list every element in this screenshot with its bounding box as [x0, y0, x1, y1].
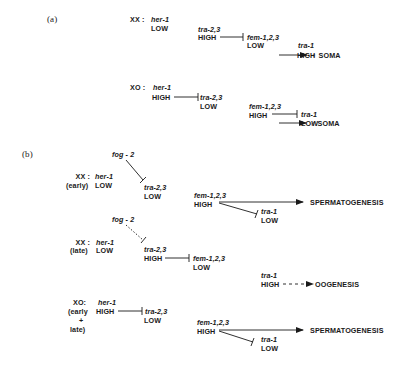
pathway-connectors: [0, 0, 403, 371]
b-xo-tra23-gene: tra-2,3: [145, 307, 167, 316]
b-xx-late-fog2: fog - 2: [112, 215, 134, 224]
a-xx-her1-level: LOW: [151, 24, 168, 33]
b-xx-early-her1-level: LOW: [95, 181, 112, 190]
a-xx-genotype: XX :: [130, 15, 144, 24]
b-xx-late-fem123-gene: fem-1,2,3: [193, 254, 225, 263]
b-xx-late-fem123-level: LOW: [193, 263, 210, 272]
b-xo-stage-line1: (early: [68, 307, 88, 316]
b-xo-fem123-gene: fem-1,2,3: [197, 318, 229, 327]
b-xx-early-stage: (early): [66, 181, 88, 190]
a-xx-tra1-gene: tra-1: [298, 41, 314, 50]
b-xo-stage-line3: late): [70, 325, 85, 334]
b-xx-early-tra23-gene: tra-2,3: [144, 183, 166, 192]
a-xx-tra23-level: HIGH: [198, 33, 216, 42]
b-xx-early-genotype: XX :: [66, 172, 90, 181]
a-xo-outcome-male-soma: ♂ SOMA: [310, 119, 340, 128]
panel-a-label: (a): [47, 15, 57, 24]
b-xo-her1-level: HIGH: [96, 307, 114, 316]
a-xo-her1-level: HIGH: [152, 93, 170, 102]
a-xx-outcome-female-soma: ♀ SOMA: [311, 51, 341, 60]
b-xo-tra1-level: LOW: [261, 344, 278, 353]
b-xx-late-tra23-level: HIGH: [144, 254, 162, 263]
b-xx-late-stage: (late): [70, 246, 88, 255]
a-xo-tra23-gene: tra-2,3: [200, 93, 222, 102]
b-xx-early-fem123-gene: fem-1,2,3: [194, 191, 226, 200]
a-xo-her1-gene: her-1: [153, 83, 171, 92]
b-xo-stage-line2: +: [79, 316, 83, 325]
b-xx-early-fem123-level: HIGH: [194, 200, 212, 209]
b-xx-late-her1-level: LOW: [96, 246, 113, 255]
b-xx-late-tra23-gene: tra-2,3: [144, 245, 166, 254]
b-xx-early-tra23-level: LOW: [144, 192, 161, 201]
b-xx-late-tra1-level: HIGH: [261, 280, 279, 289]
b-xx-early-fog2: fog - 2: [112, 150, 134, 159]
b-xo-outcome-spermatogenesis: SPERMATOGENESIS: [310, 326, 384, 335]
b-xx-late-tra1-gene: tra-1: [261, 271, 277, 280]
a-xx-fem123-level: LOW: [247, 41, 264, 50]
panel-b-label: (b): [22, 150, 33, 159]
a-xo-genotype: XO :: [130, 83, 145, 92]
a-xx-her1-gene: her-1: [151, 15, 169, 24]
a-xo-tra23-level: LOW: [200, 102, 217, 111]
a-xo-tra1-gene: tra-1: [301, 110, 317, 119]
a-xo-fem123-gene: fem-1,2,3: [249, 102, 281, 111]
b-xo-tra1-gene: tra-1: [261, 335, 277, 344]
b-xx-late-outcome-oogenesis: OOGENESIS: [315, 280, 359, 289]
b-xx-early-tra1-gene: tra-1: [261, 207, 277, 216]
b-xo-fem123-level: HIGH: [197, 327, 215, 336]
b-xx-early-tra1-level: LOW: [261, 216, 278, 225]
a-xo-fem123-level: HIGH: [249, 111, 267, 120]
b-xo-tra23-level: LOW: [144, 316, 161, 325]
b-xo-her1-gene: her-1: [98, 298, 116, 307]
b-xo-genotype: XO:: [73, 298, 86, 307]
b-xx-early-outcome-spermatogenesis: SPERMATOGENESIS: [310, 198, 384, 207]
b-xx-early-her1-gene: her-1: [95, 172, 113, 181]
